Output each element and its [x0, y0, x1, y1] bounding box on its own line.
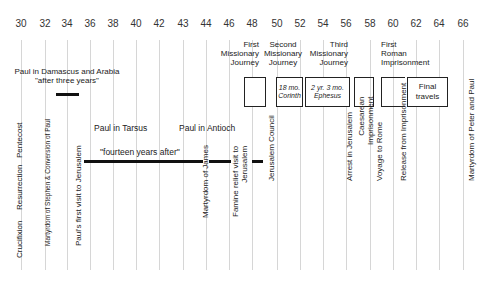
year-label: 66 [457, 18, 468, 29]
fourteen-years-label: "fourteen years after" [100, 148, 180, 157]
year-label: 43 [177, 18, 188, 29]
famine-line2: Jerusalem [241, 146, 250, 217]
grid-line [439, 40, 440, 270]
grid-line [229, 40, 230, 270]
year-label: 38 [107, 18, 118, 29]
first-journey-line3: Journey [214, 59, 259, 68]
ephesus-duration: 2 yr. 3 mo. [311, 84, 344, 92]
tarsus-label: Paul in Tarsus [94, 124, 147, 133]
grid-line [183, 40, 184, 270]
resurrection-label: Resurrection [16, 165, 25, 210]
final-line2: travels [416, 92, 440, 102]
year-label: 62 [410, 18, 421, 29]
roman-line3: Imprisonment [381, 59, 429, 68]
year-label: 64 [433, 18, 444, 29]
first-journey-box [244, 77, 266, 107]
final-travels-text: Final travels [416, 82, 440, 101]
year-label: 46 [223, 18, 234, 29]
year-label: 30 [15, 18, 26, 29]
third-journey-label: Third Missionary Journey [303, 41, 348, 67]
corinth-duration: 18 mo. [278, 84, 301, 92]
roman-imprisonment-label: First Roman Imprisonment [381, 41, 429, 67]
corinth-city: Corinth [278, 92, 301, 100]
year-label: 54 [317, 18, 328, 29]
final-line1: Final [416, 82, 440, 92]
release-label: Release from Imprisonment [400, 83, 409, 181]
year-label: 48 [246, 18, 257, 29]
damascus-period-label: Paul in Damascus and Arabia "after three… [15, 68, 120, 86]
grid-line [370, 40, 371, 270]
first-visit-label: Paul's first visit to Jerusalem [75, 145, 84, 246]
final-travels-box: Final travels [407, 77, 448, 107]
ephesus-city: Ephesus [311, 92, 344, 100]
year-label: 60 [387, 18, 398, 29]
grid-line [252, 40, 253, 270]
year-label: 40 [130, 18, 141, 29]
corinth-box: 18 mo. Corinth [276, 77, 303, 107]
fourteen-years-bar-3 [252, 160, 263, 163]
grid-line [463, 40, 464, 270]
arrest-label: Arrest in Jerusalem [346, 112, 355, 181]
third-journey-line3: Journey [303, 59, 348, 68]
peter-paul-label: Martyrdom of Peter and Paul [468, 79, 477, 181]
stephen-label: Martyrdom of Stephen & Conversion of Pau… [44, 119, 51, 246]
second-journey-label: Second Missionary Journey [264, 41, 302, 67]
year-label: 58 [364, 18, 375, 29]
corinth-text: 18 mo. Corinth [278, 84, 301, 101]
famine-label: Famine relief visit to Jerusalem [232, 146, 250, 217]
second-journey-line3: Journey [264, 59, 302, 68]
ephesus-box: 2 yr. 3 mo. Ephesus [305, 77, 350, 107]
three-years-bar [56, 93, 79, 96]
year-label: 42 [153, 18, 164, 29]
grid-line [300, 40, 301, 270]
antioch-label: Paul in Antioch [179, 124, 235, 133]
damascus-subtitle: "after three years" [15, 77, 120, 86]
year-label: 34 [61, 18, 72, 29]
council-label: Jerusalem Council [268, 115, 277, 181]
year-label: 52 [294, 18, 305, 29]
caesarean-label: Caesarean Imprisonment [358, 97, 376, 145]
year-label: 32 [39, 18, 50, 29]
ephesus-text: 2 yr. 3 mo. Ephesus [311, 84, 344, 101]
grid-line [393, 40, 394, 270]
voyage-label: Voyage to Rome [376, 122, 385, 181]
year-label: 50 [271, 18, 282, 29]
grid-line [416, 40, 417, 270]
crucifixion-label: Crucifixion [16, 221, 25, 258]
grid-line [323, 40, 324, 270]
fourteen-years-bar-2 [209, 160, 231, 163]
james-label: Martyrdom of James [202, 145, 211, 218]
grid-line [277, 40, 278, 270]
year-label: 56 [340, 18, 351, 29]
year-label: 36 [84, 18, 95, 29]
first-journey-label: First Missionary Journey [214, 41, 259, 67]
fourteen-years-bar-1 [84, 160, 203, 163]
year-label: 44 [200, 18, 211, 29]
pentecost-label: Pentecost [16, 122, 25, 158]
